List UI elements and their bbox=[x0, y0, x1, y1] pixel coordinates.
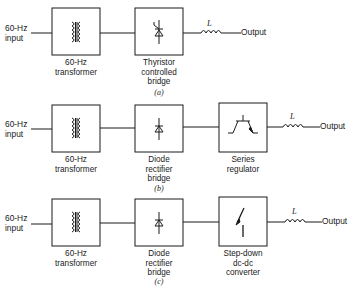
step-down-converter-block bbox=[219, 197, 267, 246]
inductor-icon bbox=[201, 31, 221, 34]
output-label: Output bbox=[322, 217, 347, 227]
diagram-a bbox=[31, 8, 241, 55]
transformer-icon bbox=[72, 118, 80, 138]
caption: (c) bbox=[150, 277, 168, 287]
input-label: 60-Hz input bbox=[5, 24, 27, 43]
caption: (a) bbox=[150, 88, 168, 98]
block-label: 60-Hz transformer bbox=[52, 249, 100, 268]
caption: (b) bbox=[150, 184, 168, 194]
diode-icon bbox=[155, 118, 163, 140]
output-label: Output bbox=[241, 28, 266, 38]
diagram-b bbox=[31, 103, 320, 152]
inductor-label: L bbox=[292, 207, 297, 217]
block-label: Diode rectifier bridge bbox=[130, 249, 188, 278]
inductor-label: L bbox=[207, 19, 212, 29]
block-label: Series regulator bbox=[214, 155, 272, 174]
diagram-c bbox=[31, 197, 322, 246]
block-label: Thyristor controlled bridge bbox=[130, 58, 188, 87]
inductor-icon bbox=[285, 220, 305, 223]
transformer-icon bbox=[72, 22, 80, 42]
block-label: 60-Hz transformer bbox=[52, 155, 100, 174]
series-regulator-block bbox=[219, 103, 267, 152]
inductor-icon bbox=[283, 125, 303, 128]
transistor-icon bbox=[228, 115, 258, 133]
switch-icon bbox=[236, 208, 244, 237]
diode-icon bbox=[155, 212, 163, 234]
block-label: Step-down dc-dc converter bbox=[212, 249, 274, 278]
thyristor-icon bbox=[154, 20, 163, 44]
block-label: 60-Hz transformer bbox=[52, 58, 100, 77]
inductor-label: L bbox=[290, 112, 295, 122]
block-label: Diode rectifier bridge bbox=[130, 155, 188, 184]
input-label: 60-Hz input bbox=[5, 120, 27, 139]
transformer-icon bbox=[72, 212, 80, 232]
input-label: 60-Hz input bbox=[5, 214, 27, 233]
output-label: Output bbox=[320, 122, 345, 132]
